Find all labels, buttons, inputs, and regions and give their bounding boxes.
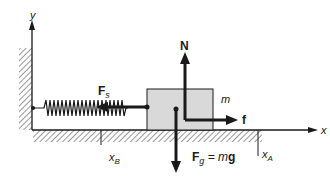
y-axis-label: y	[29, 9, 37, 21]
friction-label: f	[242, 113, 247, 127]
friction-arrowhead-icon	[226, 115, 238, 125]
spring-block-diagram: y x m Fs N f Fg = mg xB xA	[0, 0, 330, 184]
gravity-label: Fg = mg	[192, 150, 235, 166]
wall-hatching	[19, 48, 32, 130]
gravity-arrowhead-icon	[171, 161, 181, 173]
x-axis-arrow-icon	[308, 127, 318, 133]
xb-label: xB	[108, 151, 121, 166]
mass-label: m	[221, 93, 230, 105]
normal-force-label: N	[180, 39, 189, 53]
spring-force-label: Fs	[98, 84, 110, 100]
normal-force-arrowhead-icon	[180, 52, 190, 64]
ground-hatching	[33, 130, 262, 142]
y-axis-arrow-icon	[29, 20, 35, 30]
mass-block	[147, 89, 213, 130]
x-axis-label: x	[320, 124, 327, 136]
xa-label: xA	[261, 148, 273, 163]
